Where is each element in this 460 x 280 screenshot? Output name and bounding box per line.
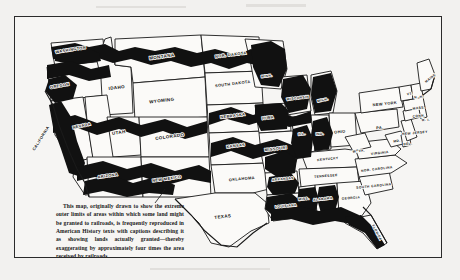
scan-artifact [246,4,306,7]
state-label-california: CALIFORNIA [31,125,50,151]
state-label-rhode-island: R. I. [422,118,430,123]
scan-artifact [96,6,186,8]
state-label-illinois: ILL. [298,132,306,137]
state-label-delaware: DEL. [403,142,412,147]
state-label-pennsylvania: PA. [376,125,384,131]
map-caption: This map, originally drawn to show the e… [56,202,184,258]
state-label-ohio: OHIO [334,129,346,135]
state-label-maryland: MD. [393,139,401,144]
caption-text: This map, originally drawn to show the e… [56,202,184,258]
map-frame-border: WASHINGTONOREGONCALIFORNIANEVADAIDAHOMON… [14,16,442,258]
state-label-vermont: VT. [407,92,413,97]
scan-artifact [150,268,270,270]
page-top-ghost-text [0,0,460,13]
state-label-indiana: IND. [316,132,325,137]
scanned-map-figure: WASHINGTONOREGONCALIFORNIANEVADAIDAHOMON… [0,0,460,280]
